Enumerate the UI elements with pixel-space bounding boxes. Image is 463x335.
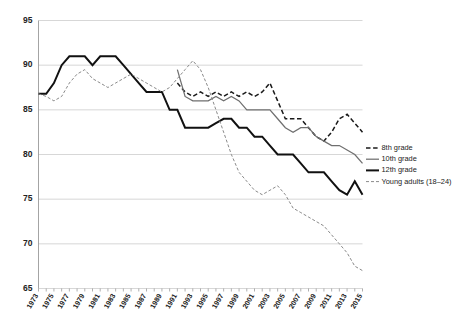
x-tick-label: 2001 [240, 292, 256, 310]
data-series-group [39, 56, 363, 270]
x-tick-label: 2011 [318, 292, 334, 310]
chart-container: 65707580859095 1973197519771979198119831… [0, 0, 463, 335]
series-line-12th-grade [39, 56, 363, 194]
x-axis-ticks [39, 289, 363, 292]
x-tick-label: 1983 [102, 292, 118, 310]
y-tick-label: 90 [23, 59, 33, 69]
x-tick-label: 1989 [148, 292, 164, 310]
x-tick-label: 2003 [256, 292, 272, 310]
x-tick-label: 2005 [271, 292, 287, 310]
y-tick-label: 85 [23, 104, 33, 114]
y-tick-label: 95 [23, 15, 33, 25]
x-tick-label: 2007 [287, 292, 303, 310]
x-tick-label: 1991 [163, 292, 179, 310]
x-tick-label: 1993 [179, 292, 195, 310]
legend-label-3: 12th grade [382, 165, 417, 174]
x-tick-label: 1981 [86, 292, 102, 310]
series-line-10th-grade [177, 70, 362, 164]
x-tick-label: 1973 [24, 292, 40, 310]
x-tick-label: 1997 [210, 292, 226, 310]
legend-label-1: 8th grade [382, 143, 413, 152]
series-line-8th-grade [177, 83, 362, 141]
y-tick-label: 75 [23, 193, 33, 203]
x-tick-label: 1985 [117, 292, 133, 310]
x-tick-label: 1979 [71, 292, 87, 310]
legend-label-4: Young adults (18–24) [382, 177, 452, 186]
y-tick-label: 65 [23, 283, 33, 293]
x-tick-label: 1977 [55, 292, 71, 310]
x-tick-label: 2015 [348, 292, 364, 310]
line-chart: 65707580859095 1973197519771979198119831… [0, 0, 463, 335]
gridlines [39, 21, 363, 289]
y-axis-labels: 65707580859095 [23, 15, 33, 293]
y-tick-label: 70 [23, 238, 33, 248]
x-tick-label: 2013 [333, 292, 349, 310]
x-tick-label: 1975 [40, 292, 56, 310]
x-tick-label: 1995 [194, 292, 210, 310]
chart-legend: 8th grade10th grade12th gradeYoung adult… [366, 143, 452, 186]
x-tick-label: 1999 [225, 292, 241, 310]
y-tick-label: 80 [23, 149, 33, 159]
legend-label-2: 10th grade [382, 154, 417, 163]
x-tick-label: 1987 [132, 292, 148, 310]
x-tick-label: 2009 [302, 292, 318, 310]
x-axis-labels: 1973197519771979198119831985198719891991… [24, 292, 364, 310]
